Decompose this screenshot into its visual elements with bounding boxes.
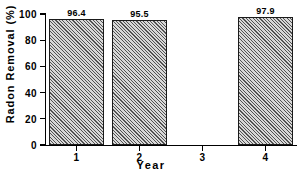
x-axis-tick bbox=[202, 146, 203, 151]
y-axis-tick-label: 40 bbox=[0, 87, 37, 98]
bar-value-label: 97.9 bbox=[256, 6, 275, 16]
bar-value-label: 96.4 bbox=[67, 8, 86, 18]
x-axis-label: Year bbox=[0, 159, 302, 171]
plot-area: 96.495.597.9 bbox=[45, 14, 297, 145]
y-axis-tick-label: 80 bbox=[0, 35, 37, 46]
bar bbox=[112, 20, 167, 145]
y-axis-tick-label: 100 bbox=[0, 9, 37, 20]
bar-value-label: 95.5 bbox=[130, 9, 149, 19]
bar bbox=[238, 17, 293, 145]
x-axis-tick bbox=[76, 146, 77, 151]
y-axis-tick-label: 60 bbox=[0, 61, 37, 72]
bar bbox=[49, 19, 104, 145]
bar-chart-figure: Radon Removal (%) 020406080100 96.495.59… bbox=[0, 0, 302, 176]
y-axis-tick-label: 20 bbox=[0, 113, 37, 124]
y-axis-tick-label: 0 bbox=[0, 140, 37, 151]
x-axis-tick bbox=[139, 146, 140, 151]
x-axis-tick bbox=[265, 146, 266, 151]
